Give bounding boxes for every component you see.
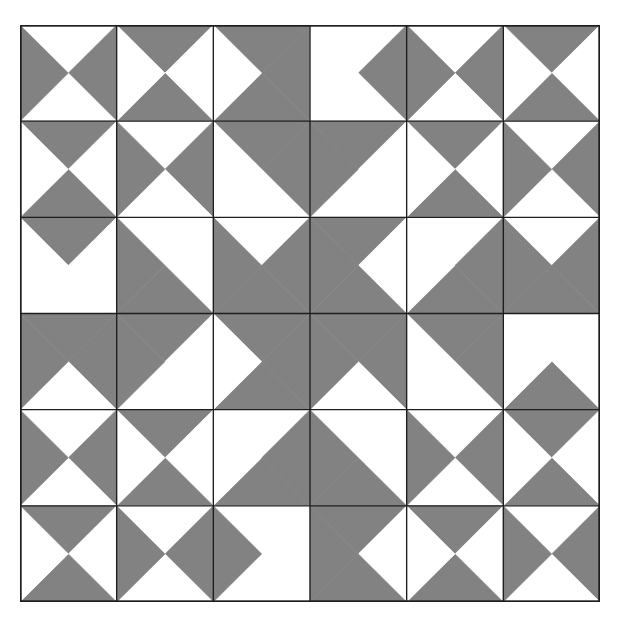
tile-r4-c0 bbox=[20, 410, 117, 506]
tile-r4-c4 bbox=[407, 410, 504, 506]
tile-r4-c2 bbox=[213, 410, 310, 506]
tile-r4-c1 bbox=[117, 410, 214, 506]
tile-r2-c0 bbox=[20, 217, 117, 313]
tile-r0-c4 bbox=[407, 25, 504, 121]
tile-r1-c2 bbox=[213, 121, 310, 217]
tile-r5-c2 bbox=[213, 506, 310, 602]
tile-r0-c2 bbox=[213, 25, 310, 121]
tile-r3-c2 bbox=[213, 314, 310, 410]
tile-r5-c0 bbox=[20, 506, 117, 602]
tile-r2-c3 bbox=[310, 217, 407, 313]
tile-r3-c3 bbox=[310, 314, 407, 410]
tile-r1-c5 bbox=[503, 121, 600, 217]
tile-r2-c2 bbox=[213, 217, 310, 313]
tile-r4-c3 bbox=[310, 410, 407, 506]
tile-r3-c1 bbox=[117, 314, 214, 410]
tile-r4-c5 bbox=[503, 410, 600, 506]
tile-r5-c1 bbox=[117, 506, 214, 602]
tile-r2-c4 bbox=[407, 217, 504, 313]
tile-r0-c0 bbox=[20, 25, 117, 121]
pattern-canvas bbox=[0, 0, 623, 623]
tile-r5-c5 bbox=[503, 506, 600, 602]
tile-r0-c5 bbox=[503, 25, 600, 121]
tile-r1-c3 bbox=[310, 121, 407, 217]
tile-r0-c1 bbox=[117, 25, 214, 121]
quarter-square-triangle-grid bbox=[20, 25, 600, 602]
tile-r3-c5 bbox=[503, 314, 600, 410]
tile-r5-c4 bbox=[407, 506, 504, 602]
tile-r1-c0 bbox=[20, 121, 117, 217]
tile-r0-c3 bbox=[310, 25, 407, 121]
tile-r1-c4 bbox=[407, 121, 504, 217]
tile-r1-c1 bbox=[117, 121, 214, 217]
tile-r3-c4 bbox=[407, 314, 504, 410]
tile-r2-c5 bbox=[503, 217, 600, 313]
tile-r3-c0 bbox=[20, 314, 117, 410]
tile-r2-c1 bbox=[117, 217, 214, 313]
tile-r5-c3 bbox=[310, 506, 407, 602]
